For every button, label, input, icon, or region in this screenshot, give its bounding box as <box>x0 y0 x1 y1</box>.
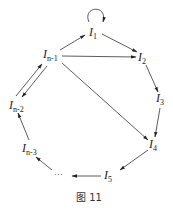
figure-caption: 图 11 <box>76 192 102 203</box>
edge-In-1-to-In-2 <box>22 66 47 97</box>
node-I3: I3 <box>155 91 164 107</box>
node-In-3: In-3 <box>21 141 37 157</box>
node-In-2: In-2 <box>8 98 24 114</box>
edge-I2-to-I3 <box>146 65 158 92</box>
edge-In-1-to-I2 <box>62 56 136 57</box>
node-ellipsis: ··· <box>54 169 63 179</box>
edge-dots-to-In-3 <box>36 157 52 170</box>
edge-I4-to-I5 <box>120 150 148 170</box>
edges <box>16 9 160 176</box>
edge-I1-self-loop <box>88 9 104 22</box>
node-I4: I4 <box>148 137 157 153</box>
edge-In-1-to-I4 <box>62 63 148 140</box>
node-I5: I5 <box>103 168 112 184</box>
edge-I3-to-I4 <box>155 108 160 137</box>
node-I2: I2 <box>137 50 146 66</box>
edge-In-2-to-In-1 <box>16 64 42 96</box>
nodes: I1 I2 I3 I4 I5 ··· In-3 In-2 In-1 <box>8 25 164 184</box>
edge-I1-to-I2 <box>102 34 137 52</box>
edge-In-1-to-I1 <box>60 35 85 50</box>
edge-In-3-to-In-2 <box>18 113 29 140</box>
node-In-1: In-1 <box>42 47 58 63</box>
graph-diagram: I1 I2 I3 I4 I5 ··· In-3 In-2 In-1 图 11 <box>0 0 173 212</box>
node-I1: I1 <box>88 25 97 41</box>
